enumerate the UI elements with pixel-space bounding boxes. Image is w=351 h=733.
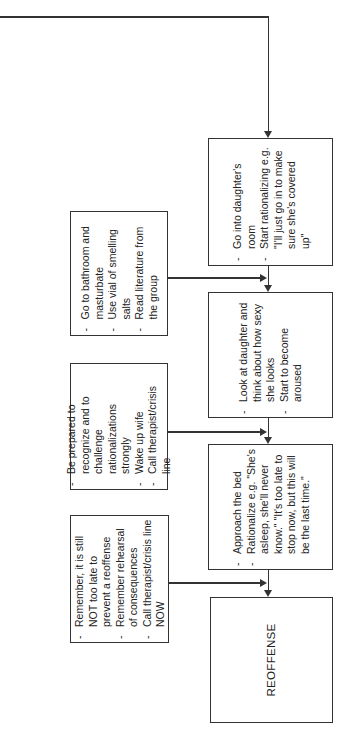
- entry-line-vertical: [268, 16, 270, 132]
- intervention-item: Go to bathroom and masturbate: [79, 216, 106, 331]
- intervention-bathroom: Go to bathroom and masturbate Use vial o…: [70, 211, 168, 336]
- intervention-item: Read literature from the group: [133, 216, 160, 331]
- step-daughters-room: Go into daughter's room Start rationaliz…: [208, 138, 333, 266]
- intervention-item: Call therapist/crisis line NOW: [140, 519, 167, 639]
- intervention-connector: [168, 277, 261, 279]
- step-item: Look at daughter and think about how sex…: [237, 296, 278, 414]
- intervention-item: Remember rehearsal of consequences: [113, 519, 140, 639]
- intervention-remember: Remember, it is still NOT too late to pr…: [70, 515, 169, 643]
- step-item: Approach the bed: [230, 448, 244, 566]
- intervention-item: Wake up wife: [133, 368, 147, 486]
- arrow-right-icon: [260, 428, 267, 436]
- intervention-challenge-rationalizations: Be prepared to recognize and to challeng…: [70, 363, 168, 490]
- intervention-item: Call therapist/crisis line: [146, 368, 173, 486]
- step-item: Start rationalizing e.g. "I'll just go i…: [257, 143, 311, 261]
- arrow-down-icon: [264, 590, 272, 597]
- arrow-right-icon: [260, 274, 267, 282]
- step-item: Rationalize e.g. "She's asleep, she'll n…: [244, 448, 312, 566]
- intervention-item: Use vial of smelling salts: [106, 216, 133, 331]
- connector-line: [268, 570, 270, 591]
- reoffense-label: REOFFENSE: [265, 624, 279, 697]
- entry-line-horizontal: [0, 16, 269, 18]
- step-item: Go into daughter's room: [230, 143, 257, 261]
- step-approach-bed: Approach the bed Rationalize e.g. "She's…: [208, 444, 333, 570]
- arrow-down-icon: [264, 285, 272, 292]
- connector-line: [268, 418, 270, 438]
- connector-line: [268, 266, 270, 286]
- intervention-item: Remember, it is still NOT too late to pr…: [72, 519, 113, 639]
- intervention-connector: [169, 582, 261, 584]
- intervention-item: Be prepared to recognize and to challeng…: [65, 368, 133, 486]
- step-look-at-daughter: Look at daughter and think about how sex…: [208, 292, 333, 418]
- outcome-reoffense: REOFFENSE: [210, 597, 333, 723]
- intervention-connector: [168, 431, 261, 433]
- arrow-down-icon: [264, 131, 272, 138]
- arrow-down-icon: [264, 437, 272, 444]
- arrow-right-icon: [260, 579, 267, 587]
- step-item: Start to become aroused: [277, 296, 304, 414]
